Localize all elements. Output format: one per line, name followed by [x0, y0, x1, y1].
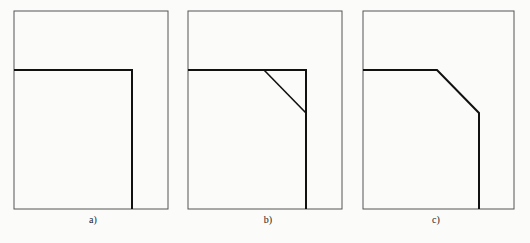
panel-a-corner-profile: [14, 70, 132, 209]
panel-b-frame: [188, 11, 342, 209]
panel-b-label: b): [264, 214, 272, 225]
panel-c-frame: [363, 11, 514, 209]
panel-a: [14, 11, 168, 209]
panel-c-label: c): [432, 214, 440, 225]
panel-a-frame: [14, 11, 168, 209]
panel-b-corner-profile: [188, 70, 306, 209]
panel-b: [188, 11, 342, 209]
panel-c: [363, 11, 514, 209]
panel-c-chamfered-profile: [363, 70, 479, 209]
panel-b-chamfer-line: [264, 70, 306, 113]
diagram-canvas: [0, 0, 530, 243]
panel-a-label: a): [89, 214, 97, 225]
